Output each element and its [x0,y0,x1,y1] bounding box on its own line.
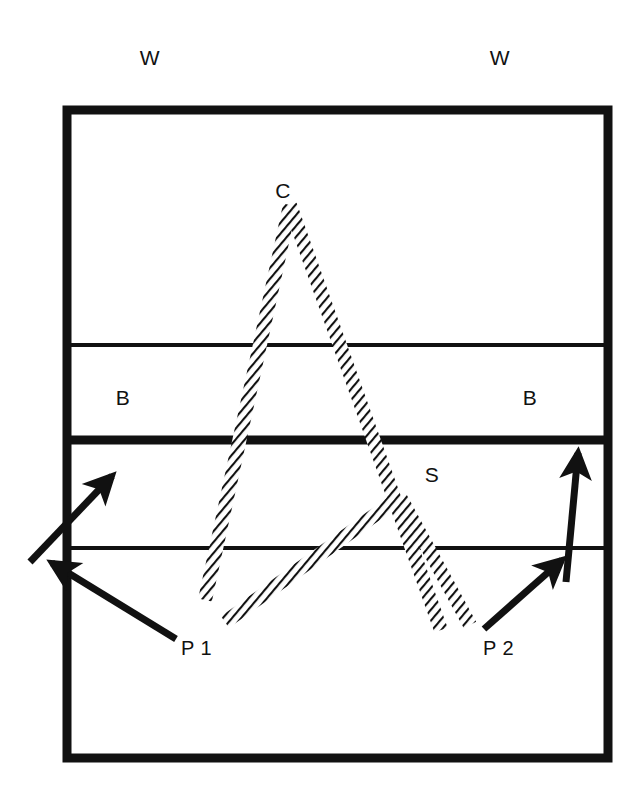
label-p2: P 2 [483,637,514,659]
syncline-left-limb [225,497,400,622]
label-p1: P 1 [181,637,212,659]
arrow-right-lower [484,560,562,629]
label-c-anticline: C [275,179,291,202]
diagram-root: W W B B C S P 1 P 2 [0,0,640,807]
folded-marker-bed-group [205,205,470,630]
geological-cross-section-figure: W W B B C S P 1 P 2 [0,0,640,807]
label-s-syncline: S [425,463,440,486]
block-diagram-frame [67,110,608,758]
label-w-right: W [490,46,510,69]
label-w-left: W [140,46,160,69]
anticline-left-limb [205,205,290,600]
label-b-left: B [116,386,131,409]
label-b-right: B [523,386,538,409]
arrow-right-vertical [566,453,578,582]
